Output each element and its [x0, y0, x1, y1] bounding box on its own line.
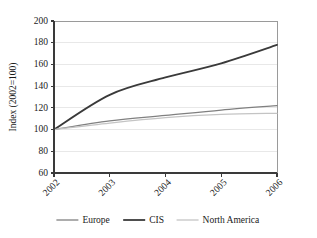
- y-tick-label: 140: [34, 81, 49, 91]
- y-tick-label: 80: [39, 146, 49, 156]
- y-tick-label: 180: [34, 37, 49, 47]
- y-tick-label: 160: [34, 59, 49, 69]
- line-chart-figure: 6080100120140160180200 20022003200420052…: [0, 0, 317, 238]
- legend-label-cis: CIS: [149, 215, 164, 225]
- y-tick-labels: 6080100120140160180200: [34, 16, 49, 178]
- x-tick-labels: 20022003200420052006: [41, 177, 285, 198]
- series-group: [54, 45, 277, 130]
- y-tick-label: 60: [39, 168, 49, 178]
- x-tick-label: 2003: [97, 177, 118, 198]
- x-tick-label: 2006: [264, 177, 285, 198]
- x-tick-marks: [54, 173, 277, 177]
- series-line-cis: [54, 45, 277, 130]
- chart-legend: EuropeCISNorth America: [56, 215, 260, 225]
- legend-label-europe: Europe: [82, 215, 109, 225]
- x-tick-label: 2002: [41, 177, 62, 198]
- legend-label-north-america: North America: [203, 215, 261, 225]
- gridlines: [54, 21, 277, 151]
- x-tick-label: 2005: [208, 177, 229, 198]
- chart-canvas: 6080100120140160180200 20022003200420052…: [0, 0, 317, 238]
- y-axis-title: Index (2002=100): [8, 63, 19, 132]
- y-tick-label: 120: [34, 103, 49, 113]
- y-tick-label: 200: [34, 16, 49, 26]
- x-tick-label: 2004: [152, 177, 173, 198]
- y-tick-label: 100: [34, 124, 49, 134]
